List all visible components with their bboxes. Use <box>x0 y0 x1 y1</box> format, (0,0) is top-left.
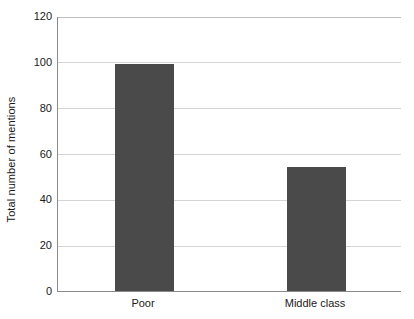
y-axis-tick-label: 100 <box>22 57 52 68</box>
gridline <box>58 17 401 18</box>
x-axis-tick-labels: PoorMiddle class <box>57 294 401 316</box>
bar <box>287 167 346 291</box>
gridline <box>58 154 401 155</box>
gridline <box>58 200 401 201</box>
gridline <box>58 62 401 63</box>
x-axis-tick-label: Middle class <box>285 297 346 310</box>
bar-chart-figure: Total number of mentions 020406080100120… <box>0 0 414 319</box>
gridline <box>58 246 401 247</box>
bar <box>115 64 174 291</box>
y-axis-tick-label: 80 <box>22 103 52 114</box>
y-axis-tick-label: 0 <box>22 286 52 297</box>
y-axis-tick-label: 120 <box>22 11 52 22</box>
y-axis-tick-labels: 020406080100120 <box>22 17 52 292</box>
y-axis-tick-label: 60 <box>22 149 52 160</box>
y-axis-title: Total number of mentions <box>0 0 22 319</box>
y-axis-tick-label: 40 <box>22 194 52 205</box>
x-axis-tick-label: Poor <box>131 297 154 310</box>
y-axis-tick-label: 20 <box>22 240 52 251</box>
plot-area <box>57 17 401 292</box>
gridline <box>58 108 401 109</box>
